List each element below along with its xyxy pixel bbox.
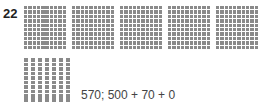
question-number: 22 <box>3 6 17 21</box>
ten-rod <box>59 58 63 103</box>
ten-rod <box>66 58 70 103</box>
ten-rod <box>31 58 35 103</box>
hundred-flat <box>216 6 259 50</box>
ten-rod <box>52 58 56 103</box>
ten-rod <box>45 58 49 103</box>
ten-rod <box>38 58 42 103</box>
hundred-flat <box>120 6 163 50</box>
hundred-flat <box>168 6 211 50</box>
tens-rods <box>24 58 70 103</box>
answer-text: 570; 500 + 70 + 0 <box>81 88 175 102</box>
hundred-flat <box>72 6 115 50</box>
hundred-flat <box>24 6 67 50</box>
hundreds-blocks <box>24 6 259 50</box>
ten-rod <box>24 58 28 103</box>
